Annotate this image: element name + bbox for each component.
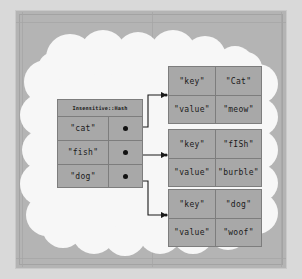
hash-entry-key: "dog" <box>58 165 108 188</box>
hash-entry-pointer <box>108 141 142 164</box>
pointer-dot-icon <box>123 126 128 131</box>
hash-table-title: Insensitive::Hash <box>58 100 142 116</box>
record-field-label: "value" <box>169 96 215 123</box>
record-field-label: "key" <box>169 130 215 158</box>
diagram-canvas: Insensitive::Hash "cat" "fish" "dog" "ke… <box>0 0 302 279</box>
hash-entry-pointer <box>108 165 142 188</box>
pointer-dot-icon <box>123 174 128 179</box>
record-row-value: "value" "meow" <box>169 95 261 123</box>
record-field-label: "value" <box>169 219 215 246</box>
record-table-dog: "key" "dog" "value" "woof" <box>168 189 262 247</box>
record-row-value: "value" "burble" <box>169 158 261 186</box>
hash-entry-key: "fish" <box>58 141 108 164</box>
record-field-value: "burble" <box>215 159 261 186</box>
record-table-cat: "key" "Cat" "value" "meow" <box>168 66 262 124</box>
record-row-value: "value" "woof" <box>169 218 261 246</box>
hash-entry-key: "cat" <box>58 117 108 140</box>
record-field-value: "Cat" <box>215 67 261 95</box>
hash-entry-row: "cat" <box>58 116 142 140</box>
hash-entry-row: "fish" <box>58 140 142 164</box>
record-field-label: "key" <box>169 67 215 95</box>
record-field-value: "meow" <box>215 96 261 123</box>
record-field-value: "woof" <box>215 219 261 246</box>
record-row-key: "key" "Cat" <box>169 67 261 95</box>
hash-table-title-row: Insensitive::Hash <box>58 100 142 116</box>
record-row-key: "key" "fISh" <box>169 130 261 158</box>
record-field-label: "key" <box>169 190 215 218</box>
record-field-value: "fISh" <box>215 130 261 158</box>
record-field-value: "dog" <box>215 190 261 218</box>
record-row-key: "key" "dog" <box>169 190 261 218</box>
hash-entry-pointer <box>108 117 142 140</box>
pointer-dot-icon <box>123 150 128 155</box>
hash-entry-row: "dog" <box>58 164 142 188</box>
hash-table: Insensitive::Hash "cat" "fish" "dog" <box>57 99 143 188</box>
record-field-label: "value" <box>169 159 215 186</box>
frame-seam-right <box>281 12 282 267</box>
frame-seam-top <box>16 22 286 23</box>
frame-seam-bottom <box>16 258 286 259</box>
record-table-fish: "key" "fISh" "value" "burble" <box>168 129 262 187</box>
